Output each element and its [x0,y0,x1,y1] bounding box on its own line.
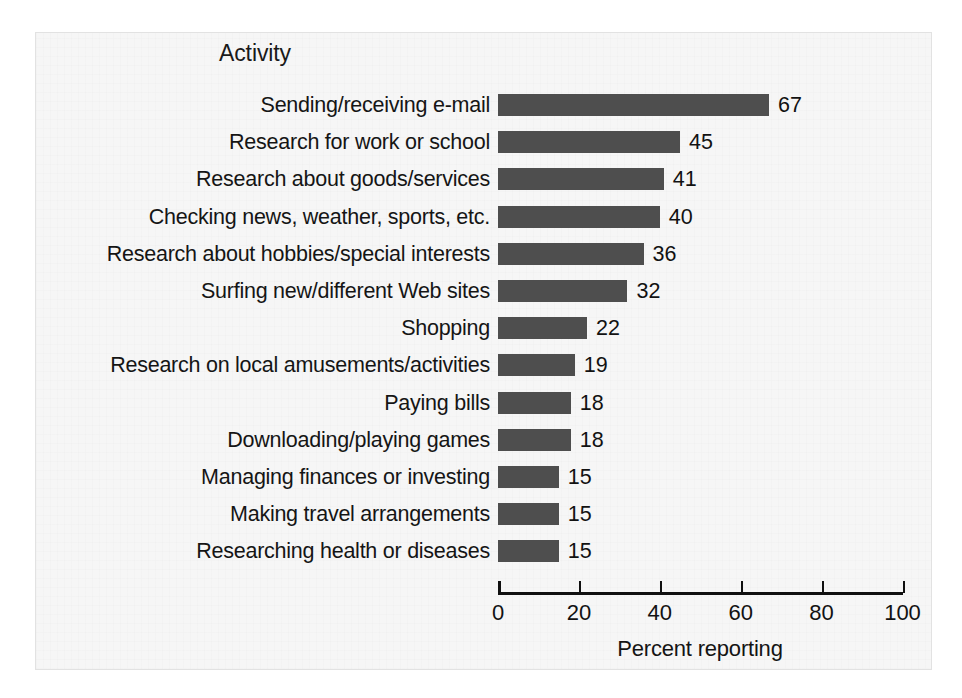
bar-value-label: 19 [584,350,608,380]
x-axis-tick [822,581,825,593]
bar [498,317,587,339]
bar-category-label: Research for work or school [20,127,490,157]
bar [498,503,559,525]
bar [498,131,680,153]
bar-row: Research for work or school45 [0,127,962,157]
bar-row: Research about goods/services41 [0,164,962,194]
bar-value-label: 41 [673,164,697,194]
bar-category-label: Checking news, weather, sports, etc. [20,202,490,232]
bar-value-label: 18 [580,388,604,418]
bar [498,466,559,488]
bar-row: Researching health or diseases15 [0,536,962,566]
bar-value-label: 40 [669,202,693,232]
x-axis-tick [903,581,906,593]
x-axis-tick [498,581,501,593]
x-axis-tick-label: 60 [701,600,781,626]
bar-category-label: Research on local amusements/activities [20,350,490,380]
bar-row: Checking news, weather, sports, etc.40 [0,202,962,232]
bar-value-label: 36 [653,239,677,269]
bar-value-label: 15 [568,499,592,529]
bar-value-label: 67 [778,90,802,120]
bar-row: Shopping22 [0,313,962,343]
bar-category-label: Researching health or diseases [20,536,490,566]
bar-category-label: Shopping [20,313,490,343]
bar-row: Research on local amusements/activities1… [0,350,962,380]
bar-value-label: 45 [689,127,713,157]
bar-row: Paying bills18 [0,388,962,418]
bar-row: Research about hobbies/special interests… [0,239,962,269]
x-axis-label: Percent reporting [560,636,840,662]
x-axis-tick [579,581,582,593]
bar-row: Making travel arrangements15 [0,499,962,529]
x-axis-tick-label: 0 [458,600,538,626]
bar [498,429,571,451]
bar-value-label: 18 [580,425,604,455]
bar [498,280,627,302]
x-axis-tick-label: 20 [539,600,619,626]
bar-value-label: 32 [636,276,660,306]
bar [498,243,644,265]
bar-chart-plot: Sending/receiving e-mail67Research for w… [0,0,962,698]
bar-category-label: Surfing new/different Web sites [20,276,490,306]
bar [498,168,664,190]
x-axis-tick-label: 100 [863,600,943,626]
bar-row: Surfing new/different Web sites32 [0,276,962,306]
chart-screenshot: Activity Sending/receiving e-mail67Resea… [0,0,962,698]
x-axis-tick [660,581,663,593]
bar [498,540,559,562]
x-axis-line [498,592,903,595]
x-axis-tick-label: 40 [620,600,700,626]
bar-category-label: Research about hobbies/special interests [20,239,490,269]
bar-row: Managing finances or investing15 [0,462,962,492]
bar-row: Downloading/playing games18 [0,425,962,455]
bar-value-label: 15 [568,536,592,566]
bar [498,354,575,376]
bar [498,392,571,414]
bar [498,94,769,116]
bar-value-label: 22 [596,313,620,343]
bar-category-label: Making travel arrangements [20,499,490,529]
bar [498,206,660,228]
bar-category-label: Managing finances or investing [20,462,490,492]
x-axis-tick-label: 80 [782,600,862,626]
bar-row: Sending/receiving e-mail67 [0,90,962,120]
x-axis-tick [741,581,744,593]
bar-category-label: Research about goods/services [20,164,490,194]
bar-category-label: Paying bills [20,388,490,418]
bar-category-label: Sending/receiving e-mail [20,90,490,120]
bar-category-label: Downloading/playing games [20,425,490,455]
bar-value-label: 15 [568,462,592,492]
